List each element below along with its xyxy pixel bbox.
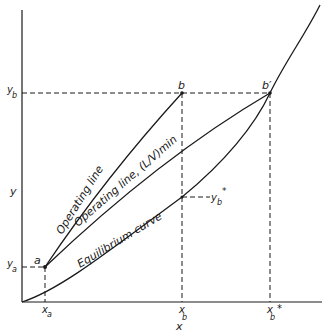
xb-star-tick-label: x b * [266,303,282,322]
yb-star-label: y b * [210,186,227,207]
yb-tick-label: y b [6,84,17,100]
svg-text:*: * [222,186,227,196]
point-yb-star-marker [181,196,184,199]
ya-tick-label: y a [6,258,17,274]
svg-text:b: b [217,198,222,207]
svg-text:a: a [47,310,52,319]
y-axis-label: y [9,185,17,198]
x-axis-label: x [175,320,183,333]
equilibrium-curve [22,5,320,302]
svg-text:*: * [277,303,282,314]
svg-text:b: b [182,313,187,322]
xa-tick-label: x a [41,304,52,319]
point-b-prime-label: b′ [262,79,272,92]
svg-text:b: b [12,91,17,100]
svg-text:b: b [270,313,275,322]
point-a-marker [43,265,47,269]
point-b-label: b [178,79,185,92]
point-a-label: a [34,254,41,267]
svg-text:a: a [12,265,17,274]
diagram-canvas: a b b′ y b y a y x a x b x b * x y b * O… [0,0,332,335]
operating-line-min [45,93,270,267]
